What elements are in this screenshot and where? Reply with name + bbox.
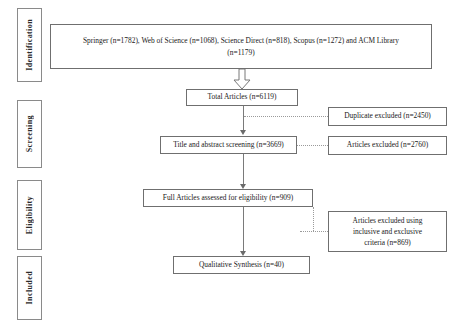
stage-box-screening: Screening — [17, 100, 42, 168]
arrowhead-down-icon-1 — [240, 130, 246, 135]
node-articles-excluded: Articles excluded (n=2760) — [328, 136, 447, 155]
stage-box-identification: Identification — [17, 8, 42, 82]
node-qualitative-synthesis: Qualitative Synthesis (n=40) — [173, 256, 310, 274]
stage-label-screening: Screening — [25, 115, 34, 152]
node-criteria-excluded: Articles excluded using inclusive and ex… — [328, 211, 447, 252]
node-full-articles-eligibility: Full Articles assessed for eligibility (… — [143, 189, 313, 207]
connector-total-to-duplicate — [244, 116, 328, 117]
node-criteria-excluded-line2: inclusive and exclusive — [353, 227, 422, 236]
node-criteria-excluded-line1: Articles excluded using — [353, 216, 423, 225]
stage-box-eligibility: Eligibility — [17, 180, 42, 250]
stage-label-included: Included — [25, 271, 34, 304]
node-sources-line1: Springer (n=1782), Web of Science (n=106… — [83, 36, 399, 45]
connector-screening-to-eligibility — [243, 154, 244, 186]
connector-eligibility-to-included — [243, 207, 244, 253]
stage-box-included: Included — [17, 256, 42, 320]
node-duplicate-excluded: Duplicate excluded (n=2450) — [328, 107, 447, 126]
stage-label-identification: Identification — [25, 19, 34, 71]
connector-screening-to-excluded — [297, 145, 328, 146]
prisma-flow-diagram: Identification Screening Eligibility Inc… — [0, 0, 456, 326]
node-total-articles: Total Articles (n=6119) — [186, 89, 298, 106]
node-sources-line2: (n=1179) — [227, 48, 254, 57]
connector-eligibility-drop — [313, 207, 314, 231]
node-sources: Springer (n=1782), Web of Science (n=106… — [50, 24, 432, 69]
stage-label-eligibility: Eligibility — [25, 196, 34, 234]
connector-total-to-screening — [243, 106, 244, 132]
node-criteria-excluded-line3: criteria (n=869) — [364, 238, 411, 247]
node-title-abstract-screening: Title and abstract screening (n=3669) — [160, 136, 297, 154]
connector-eligibility-to-criteria — [300, 231, 328, 232]
